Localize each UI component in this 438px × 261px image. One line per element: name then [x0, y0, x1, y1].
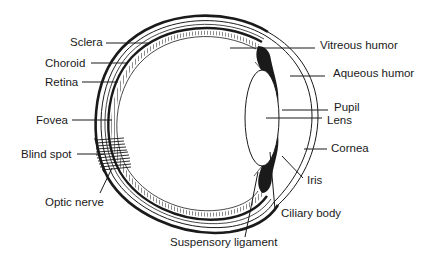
retina-shape	[113, 33, 262, 215]
label-vitreous-humor: Vitreous humor	[320, 39, 398, 52]
label-optic-nerve: Optic nerve	[45, 196, 104, 209]
label-blind-spot: Blind spot	[21, 148, 72, 161]
label-cornea: Cornea	[331, 142, 369, 155]
label-lens: Lens	[327, 114, 352, 127]
label-retina: Retina	[45, 76, 78, 89]
label-sclera: Sclera	[70, 36, 103, 49]
label-pupil: Pupil	[334, 101, 360, 114]
label-aqueous-humor: Aqueous humor	[333, 67, 414, 80]
label-suspensory-ligament: Suspensory ligament	[170, 236, 277, 249]
label-iris: Iris	[307, 174, 322, 187]
label-choroid: Choroid	[45, 57, 85, 70]
choroid-shape	[108, 28, 267, 220]
label-ciliary-body: Ciliary body	[281, 207, 341, 220]
label-fovea: Fovea	[36, 114, 68, 127]
